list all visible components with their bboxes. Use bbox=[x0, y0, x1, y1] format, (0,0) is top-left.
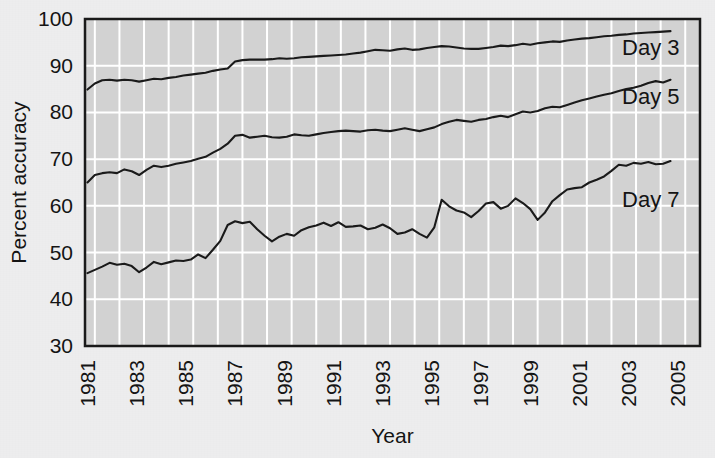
x-tick-label: 2003 bbox=[617, 360, 640, 407]
series-label-day-3: Day 3 bbox=[622, 35, 679, 60]
x-tick-label: 1995 bbox=[420, 360, 443, 407]
x-tick-label: 1983 bbox=[125, 360, 148, 407]
y-tick-label: 70 bbox=[50, 147, 73, 170]
x-tick-label: 2001 bbox=[568, 360, 591, 407]
y-axis-tick-labels: 30405060708090100 bbox=[38, 7, 73, 357]
x-tick-label: 1985 bbox=[174, 360, 197, 407]
y-tick-label: 50 bbox=[50, 241, 73, 264]
x-tick-label: 1991 bbox=[322, 360, 345, 407]
x-axis-tick-labels: 1981198319851987198919911993199519971999… bbox=[76, 360, 689, 407]
y-tick-label: 30 bbox=[50, 334, 73, 357]
series-label-day-5: Day 5 bbox=[622, 84, 679, 109]
line-chart: 30405060708090100 1981198319851987198919… bbox=[0, 0, 715, 458]
y-tick-label: 40 bbox=[50, 287, 73, 310]
x-tick-label: 1997 bbox=[469, 360, 492, 407]
x-tick-label: 1987 bbox=[223, 360, 246, 407]
x-tick-label: 1981 bbox=[76, 360, 99, 407]
y-tick-label: 100 bbox=[38, 7, 73, 30]
y-tick-label: 60 bbox=[50, 194, 73, 217]
y-axis-title: Percent accuracy bbox=[7, 101, 30, 264]
x-tick-label: 1989 bbox=[273, 360, 296, 407]
series-label-day-7: Day 7 bbox=[622, 187, 679, 212]
x-axis-title: Year bbox=[371, 424, 413, 447]
x-tick-label: 2005 bbox=[666, 360, 689, 407]
x-tick-label: 1993 bbox=[371, 360, 394, 407]
chart-figure: 30405060708090100 1981198319851987198919… bbox=[0, 0, 715, 458]
y-tick-label: 80 bbox=[50, 100, 73, 123]
x-tick-label: 1999 bbox=[519, 360, 542, 407]
y-tick-label: 90 bbox=[50, 54, 73, 77]
plot-area-background bbox=[85, 19, 700, 346]
